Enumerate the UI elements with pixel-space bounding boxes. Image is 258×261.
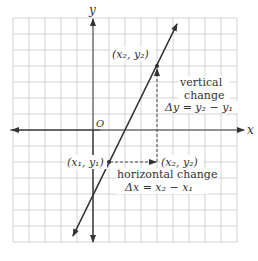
vertical-change-formula: Δy = y₂ − y₁ bbox=[164, 101, 233, 114]
horizontal-change-formula: Δx = x₂ − x₁ bbox=[124, 181, 193, 194]
slope-diagram: y x O (x₂, y₂) (x₁, y₁) (x₂, y₂) vertica… bbox=[0, 0, 258, 261]
y-axis-label: y bbox=[88, 3, 96, 17]
origin-label: O bbox=[96, 118, 104, 129]
point-2 bbox=[155, 64, 159, 68]
x-axis-label: x bbox=[247, 123, 254, 137]
point-1 bbox=[107, 160, 111, 164]
horizontal-change-label: horizontal change bbox=[117, 168, 217, 181]
point-2-label: (x₂, y₂) bbox=[112, 48, 149, 61]
vertical-change-label-1: vertical bbox=[179, 76, 223, 89]
point-1-label: (x₁, y₁) bbox=[67, 156, 104, 169]
